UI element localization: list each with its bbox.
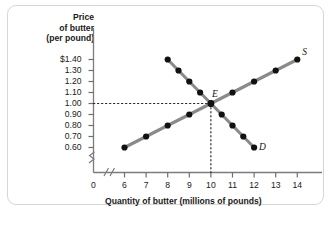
x-axis-tick-label: 12 bbox=[245, 180, 263, 190]
data-point-D[interactable] bbox=[165, 56, 171, 62]
x-axis-origin-label: 0 bbox=[85, 180, 103, 190]
data-point-S[interactable] bbox=[294, 56, 300, 62]
demand-curve-label: D bbox=[259, 142, 266, 152]
x-axis-tick-label: 10 bbox=[202, 180, 220, 190]
data-point-D[interactable] bbox=[229, 122, 235, 128]
data-point-D[interactable] bbox=[186, 78, 192, 84]
y-axis-tick-label: 0.90 bbox=[42, 109, 82, 119]
y-axis-tick-label: $1.40 bbox=[42, 54, 82, 64]
x-axis-tick-label: 8 bbox=[159, 180, 177, 190]
data-point-S[interactable] bbox=[143, 133, 149, 139]
supply-curve-label: S bbox=[302, 47, 307, 57]
y-axis-tick-label: 0.60 bbox=[42, 142, 82, 152]
x-axis-tick-label: 14 bbox=[288, 180, 306, 190]
y-axis-tick-label: 0.70 bbox=[42, 131, 82, 141]
x-axis-tick-label: 6 bbox=[116, 180, 134, 190]
data-point-D[interactable] bbox=[175, 67, 181, 73]
equilibrium-label: E bbox=[212, 89, 218, 99]
x-axis-tick-label: 9 bbox=[180, 180, 198, 190]
data-point-D[interactable] bbox=[197, 89, 203, 95]
data-point-S[interactable] bbox=[121, 144, 127, 150]
data-point-D[interactable] bbox=[219, 111, 225, 117]
y-axis-tick-label: 1.20 bbox=[42, 76, 82, 86]
y-axis-tick-label: 1.00 bbox=[42, 98, 82, 108]
x-axis-tick-label: 7 bbox=[137, 180, 155, 190]
y-axis-tick-label: 0.80 bbox=[42, 120, 82, 130]
data-point-S[interactable] bbox=[251, 78, 257, 84]
data-point-S[interactable] bbox=[273, 67, 279, 73]
data-point-S[interactable] bbox=[229, 89, 235, 95]
data-point-S[interactable] bbox=[186, 111, 192, 117]
equilibrium-point[interactable] bbox=[208, 100, 215, 107]
data-point-S[interactable] bbox=[165, 122, 171, 128]
data-point-D[interactable] bbox=[240, 133, 246, 139]
y-axis-tick-label: 1.10 bbox=[42, 87, 82, 97]
y-axis-tick-label: 1.30 bbox=[42, 65, 82, 75]
data-point-D[interactable] bbox=[251, 144, 257, 150]
x-axis-tick-label: 13 bbox=[267, 180, 285, 190]
x-axis-tick-label: 11 bbox=[224, 180, 242, 190]
